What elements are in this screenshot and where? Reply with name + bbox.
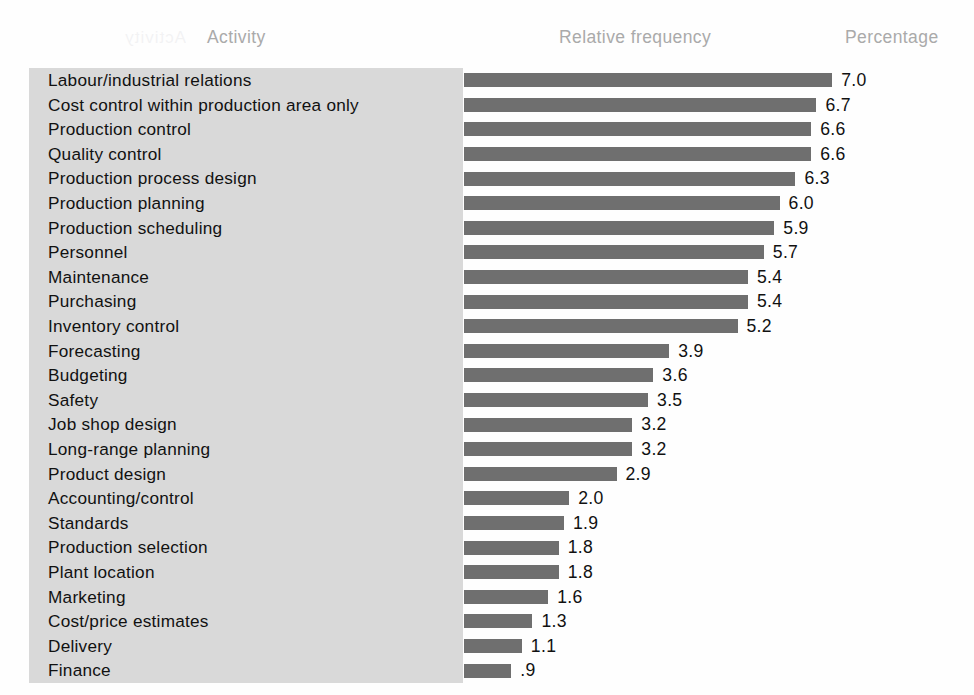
chart-figure: Activity Finance Activity Relative frequ… (0, 0, 974, 695)
bar (464, 172, 795, 186)
bar (464, 639, 522, 653)
bar-row: Production scheduling5.9 (0, 216, 974, 241)
activity-label: Plant location (48, 560, 155, 585)
bar-row: Forecasting3.9 (0, 339, 974, 364)
bar-row: Accounting/control2.0 (0, 486, 974, 511)
bar-value-label: 5.4 (757, 289, 782, 314)
activity-label: Production process design (48, 166, 257, 191)
bar-value-label: 6.6 (820, 142, 845, 167)
bar-value-label: 1.9 (573, 511, 598, 536)
bar-row: Plant location1.8 (0, 560, 974, 585)
bar-value-label: 1.8 (568, 560, 593, 585)
bar (464, 614, 532, 628)
bar (464, 565, 559, 579)
bar-rows: Labour/industrial relations7.0Cost contr… (0, 68, 974, 683)
bar (464, 418, 632, 432)
bar-value-label: 3.9 (678, 339, 703, 364)
activity-label: Maintenance (48, 265, 149, 290)
bar (464, 245, 764, 259)
bar-value-label: 3.2 (641, 412, 666, 437)
bar-value-label: 5.2 (747, 314, 772, 339)
bar (464, 295, 748, 309)
bar (464, 516, 564, 530)
bar-row: Inventory control5.2 (0, 314, 974, 339)
bar-row: Product design2.9 (0, 462, 974, 487)
bar-value-label: 1.6 (557, 585, 582, 610)
bar (464, 122, 811, 136)
bar-row: Production control6.6 (0, 117, 974, 142)
bar-row: Labour/industrial relations7.0 (0, 68, 974, 93)
bar (464, 664, 511, 678)
activity-label: Production planning (48, 191, 205, 216)
bar-row: Finance.9 (0, 658, 974, 683)
activity-label: Long-range planning (48, 437, 210, 462)
bar-value-label: 5.7 (773, 240, 798, 265)
bar-value-label: 3.6 (662, 363, 687, 388)
bar-value-label: 2.0 (578, 486, 603, 511)
bar-value-label: 2.9 (626, 462, 651, 487)
activity-label: Personnel (48, 240, 128, 265)
bar-row: Safety3.5 (0, 388, 974, 413)
bar (464, 73, 832, 87)
bar-value-label: 1.8 (568, 535, 593, 560)
activity-label: Production control (48, 117, 191, 142)
bar-row: Delivery1.1 (0, 634, 974, 659)
bar (464, 442, 632, 456)
bar (464, 270, 748, 284)
bar (464, 319, 738, 333)
bar (464, 467, 617, 481)
activity-label: Job shop design (48, 412, 177, 437)
activity-label: Production selection (48, 535, 208, 560)
bar-value-label: 3.5 (657, 388, 682, 413)
activity-label: Product design (48, 462, 166, 487)
bar-row: Production planning6.0 (0, 191, 974, 216)
bar-value-label: 6.3 (804, 166, 829, 191)
bar-row: Marketing1.6 (0, 585, 974, 610)
bar-value-label: 7.0 (841, 68, 866, 93)
bar-row: Production process design6.3 (0, 166, 974, 191)
column-header-relative-frequency: Relative frequency (559, 27, 711, 48)
column-header-activity: Activity (207, 27, 266, 48)
activity-label: Purchasing (48, 289, 137, 314)
bar-value-label: .9 (520, 658, 535, 683)
bar-value-label: 5.4 (757, 265, 782, 290)
activity-label: Marketing (48, 585, 126, 610)
bar (464, 590, 548, 604)
bar-row: Cost control within production area only… (0, 93, 974, 118)
bar-value-label: 6.0 (789, 191, 814, 216)
bar (464, 491, 569, 505)
bar (464, 344, 669, 358)
bar-row: Quality control6.6 (0, 142, 974, 167)
activity-label: Cost control within production area only (48, 93, 359, 118)
bar (464, 541, 559, 555)
bar-row: Maintenance5.4 (0, 265, 974, 290)
bar-row: Cost/price estimates1.3 (0, 609, 974, 634)
bar (464, 147, 811, 161)
bar-row: Purchasing5.4 (0, 289, 974, 314)
activity-label: Production scheduling (48, 216, 222, 241)
column-header-percentage: Percentage (845, 27, 939, 48)
bar-value-label: 1.3 (541, 609, 566, 634)
activity-label: Safety (48, 388, 98, 413)
activity-label: Standards (48, 511, 129, 536)
activity-label: Labour/industrial relations (48, 68, 252, 93)
bar (464, 98, 816, 112)
activity-label: Cost/price estimates (48, 609, 209, 634)
bar (464, 393, 648, 407)
activity-label: Accounting/control (48, 486, 194, 511)
bar-row: Production selection1.8 (0, 535, 974, 560)
activity-label: Delivery (48, 634, 112, 659)
bar-row: Long-range planning3.2 (0, 437, 974, 462)
bar-row: Personnel5.7 (0, 240, 974, 265)
bar (464, 368, 653, 382)
column-headers: Activity Relative frequency Percentage (0, 27, 974, 53)
bar-row: Job shop design3.2 (0, 412, 974, 437)
bar (464, 221, 774, 235)
activity-label: Budgeting (48, 363, 128, 388)
bar-value-label: 6.7 (825, 93, 850, 118)
bar-value-label: 3.2 (641, 437, 666, 462)
bar (464, 196, 780, 210)
bar-row: Standards1.9 (0, 511, 974, 536)
bar-row: Budgeting3.6 (0, 363, 974, 388)
activity-label: Finance (48, 658, 111, 683)
